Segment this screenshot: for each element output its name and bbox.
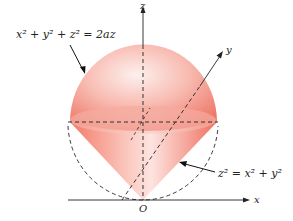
cone-equation-label: z² = x² + y² bbox=[218, 167, 282, 180]
y-axis-solid bbox=[200, 56, 220, 86]
y-axis-arrowhead-icon bbox=[217, 51, 224, 59]
x-axis-label: x bbox=[254, 194, 260, 205]
cone-pointer-arrowhead-icon bbox=[179, 161, 187, 167]
sphere-pointer-arrow bbox=[70, 45, 83, 70]
sphere-pointer-arrowhead-icon bbox=[80, 66, 86, 74]
sphere-equation-label: x² + y² + z² = 2az bbox=[16, 28, 115, 41]
x-axis-arrowhead-icon bbox=[243, 198, 250, 203]
y-axis-label: y bbox=[226, 44, 232, 55]
z-axis-label: z bbox=[140, 0, 145, 11]
origin-label: O bbox=[139, 203, 147, 214]
cone-pointer-arrow bbox=[185, 164, 215, 172]
